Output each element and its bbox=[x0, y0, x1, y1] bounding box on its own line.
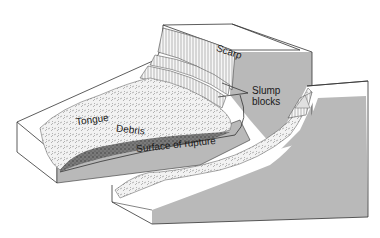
slump-diagram bbox=[0, 0, 380, 238]
label-slump-blocks-1: Slump bbox=[252, 86, 280, 96]
label-slump-blocks-2: blocks bbox=[252, 97, 280, 107]
